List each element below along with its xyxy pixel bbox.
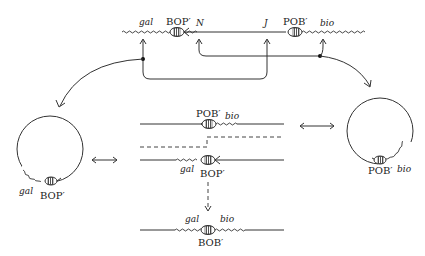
dashed-crossover <box>140 137 284 147</box>
label-bottom-bio: bio <box>220 214 235 224</box>
label-right-bio: bio <box>397 164 412 174</box>
bob-site-icon <box>201 226 215 235</box>
label-left-gal: gal <box>19 186 33 196</box>
curve-to-left-circle <box>60 59 143 106</box>
bio-wavy-segment <box>302 31 365 33</box>
top-connectors <box>56 39 371 107</box>
label-left-bop: BOP′ <box>40 190 65 201</box>
label-bop: BOP′ <box>166 16 191 27</box>
label-bio: bio <box>320 18 335 28</box>
right-double-arrow-icon <box>300 123 334 129</box>
recombination-diagram: gal BOP′ N J POB′ bio g <box>0 0 425 256</box>
curve-to-right-circle <box>320 56 370 86</box>
label-right-pob: POB′ <box>368 165 393 176</box>
right-circle-plasmid: POB′ bio <box>347 98 414 176</box>
bottom-product-chromosome: gal bio BOB′ <box>140 214 284 248</box>
n-bio-bracket <box>199 40 320 56</box>
label-pob: POB′ <box>283 16 308 27</box>
gal-j-bracket <box>143 40 267 79</box>
left-circle-plasmid: gal BOP′ <box>17 116 83 201</box>
label-j: J <box>262 18 269 28</box>
center-lower-chromosome: gal BOP′ <box>140 156 284 180</box>
label-bottom-gal: gal <box>185 214 199 224</box>
right-pob-site-icon <box>372 156 386 164</box>
arrowhead-right-curve <box>364 80 371 87</box>
center-pob-site-icon <box>201 120 216 129</box>
label-center-bop: BOP′ <box>200 168 225 179</box>
label-center-pob: POB′ <box>196 108 221 119</box>
pob-site-icon <box>288 28 302 37</box>
label-center-gal: gal <box>180 164 194 174</box>
left-double-arrow-icon <box>92 157 117 163</box>
center-upper-chromosome: POB′ bio <box>140 108 284 129</box>
dashed-down-arrow-icon <box>205 182 211 211</box>
label-bottom-bob: BOB′ <box>198 237 224 248</box>
top-chromosome: gal BOP′ N J POB′ bio <box>122 16 365 37</box>
label-n: N <box>195 18 205 28</box>
label-center-bio: bio <box>225 111 240 121</box>
label-gal: gal <box>139 17 153 27</box>
arrowhead-left-curve <box>56 100 65 107</box>
